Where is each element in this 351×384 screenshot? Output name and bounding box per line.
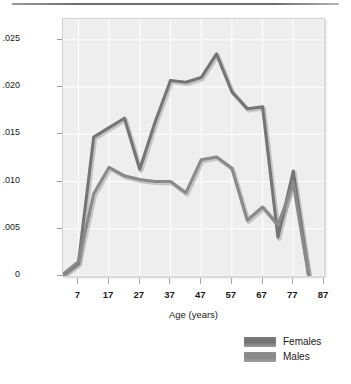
x-tick-label: 7	[62, 289, 92, 300]
x-tick-label: 77	[277, 289, 307, 300]
x-tick-label: 57	[216, 289, 246, 300]
x-tick-label: 47	[185, 289, 215, 300]
x-tick-label: 17	[93, 289, 123, 300]
x-axis-label: Age (years)	[62, 309, 325, 320]
legend-label: Females	[283, 336, 321, 347]
y-tick-label: .010	[0, 175, 20, 185]
y-tick-mark	[57, 39, 62, 40]
x-tick-mark	[292, 278, 293, 284]
x-tick-label: 67	[247, 289, 277, 300]
figure-container: Probability of onset .025.020.015.010.00…	[0, 0, 351, 384]
legend-swatch-icon	[244, 352, 276, 362]
chart-svg	[63, 19, 324, 276]
x-tick-mark	[231, 278, 232, 284]
x-tick-label: 37	[154, 289, 184, 300]
x-tick-mark	[323, 278, 324, 284]
series-line-shadow	[64, 56, 310, 276]
legend-item: Males	[244, 351, 321, 362]
y-tick-mark	[57, 133, 62, 134]
legend-item: Females	[244, 336, 321, 347]
y-tick-label: .020	[0, 80, 20, 90]
gridlines-group	[63, 19, 324, 276]
x-tick-mark	[262, 278, 263, 284]
x-tick-mark	[108, 278, 109, 284]
header-rule	[12, 3, 339, 5]
y-tick-label: 0	[0, 269, 20, 279]
x-tick-mark	[169, 278, 170, 284]
legend: FemalesMales	[244, 336, 321, 366]
y-tick-label: .015	[0, 127, 20, 137]
legend-swatch-icon	[244, 337, 276, 347]
x-tick-mark	[200, 278, 201, 284]
legend-label: Males	[283, 351, 310, 362]
y-tick-label: .005	[0, 222, 20, 232]
y-tick-mark	[57, 228, 62, 229]
x-tick-mark	[139, 278, 140, 284]
plot-area	[62, 18, 325, 277]
y-tick-mark	[57, 86, 62, 87]
x-tick-mark	[77, 278, 78, 284]
x-tick-label: 27	[124, 289, 154, 300]
y-tick-mark	[57, 181, 62, 182]
y-tick-label: .025	[0, 33, 20, 43]
y-tick-mark	[57, 275, 62, 276]
x-tick-label: 87	[308, 289, 338, 300]
